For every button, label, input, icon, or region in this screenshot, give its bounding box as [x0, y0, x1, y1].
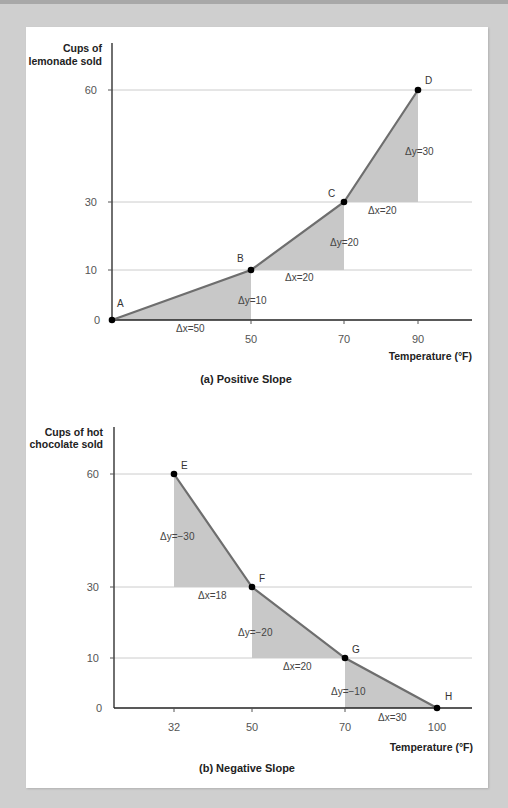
bottom-xtick-70: 70 [339, 721, 351, 733]
positive-slope-chart: A B C D Δx=50 Δy=10 Δx=20 Δy=20 Δx=20 Δy… [28, 42, 472, 385]
bottom-xtick-50: 50 [246, 721, 258, 733]
bottom-ytick-10: 10 [87, 652, 99, 664]
delta-gh-dy: Δy=−10 [331, 686, 366, 697]
delta-ef-dy: Δy=−30 [160, 531, 195, 542]
delta-bc-dy: Δy=20 [330, 237, 359, 248]
delta-ab-dy: Δy=10 [238, 295, 267, 306]
top-ytick-10: 10 [85, 264, 97, 276]
point-e [171, 471, 178, 478]
bottom-xtick-32: 32 [168, 721, 180, 733]
label-point-b: B [237, 253, 244, 264]
top-xtick-90: 90 [412, 333, 424, 345]
point-c [341, 199, 348, 206]
delta-fg-dy: Δy=−20 [238, 627, 273, 638]
bottom-ytick-0: 0 [96, 702, 102, 714]
top-xtick-70: 70 [338, 333, 350, 345]
point-d [415, 87, 422, 94]
slope-figure: A B C D Δx=50 Δy=10 Δx=20 Δy=20 Δx=20 Δy… [0, 0, 508, 808]
negative-slope-chart: E F G H Δy=−30 Δx=18 Δy=−20 Δx=20 Δy=−10… [29, 426, 473, 774]
label-point-a: A [117, 298, 124, 309]
bottom-ytick-60: 60 [87, 468, 99, 480]
label-point-e: E [181, 460, 188, 471]
top-caption: (a) Positive Slope [200, 373, 292, 385]
point-a [109, 317, 116, 324]
top-xtick-50: 50 [245, 333, 257, 345]
label-point-d: D [425, 75, 432, 86]
top-ylabel-line2: lemonade sold [28, 55, 102, 67]
top-ytick-0: 0 [94, 314, 100, 326]
point-f [249, 584, 256, 591]
point-b [248, 267, 255, 274]
point-h [434, 705, 441, 712]
delta-fg-dx: Δx=20 [283, 661, 312, 672]
top-ytick-60: 60 [85, 84, 97, 96]
delta-ef-dx: Δx=18 [198, 590, 227, 601]
delta-ab-dx: Δx=50 [176, 323, 205, 334]
point-g [342, 655, 349, 662]
top-ylabel-line1: Cups of [63, 42, 103, 54]
label-point-g: G [352, 644, 360, 655]
bottom-xlabel: Temperature (°F) [390, 741, 473, 753]
top-ytick-30: 30 [85, 196, 97, 208]
bottom-caption: (b) Negative Slope [199, 762, 295, 774]
label-point-f: F [259, 573, 265, 584]
top-xlabel: Temperature (°F) [389, 350, 472, 362]
bottom-ylabel-line2: chocolate sold [29, 438, 103, 450]
bottom-ylabel-line1: Cups of hot [45, 426, 104, 438]
delta-cd-dx: Δx=20 [368, 205, 397, 216]
delta-bc-dx: Δx=20 [285, 272, 314, 283]
bottom-xtick-100: 100 [428, 721, 446, 733]
label-point-c: C [328, 188, 335, 199]
delta-gh-dx: Δx=30 [378, 712, 407, 723]
delta-cd-dy: Δy=30 [405, 146, 434, 157]
label-point-h: H [445, 691, 452, 702]
bottom-ytick-30: 30 [87, 581, 99, 593]
